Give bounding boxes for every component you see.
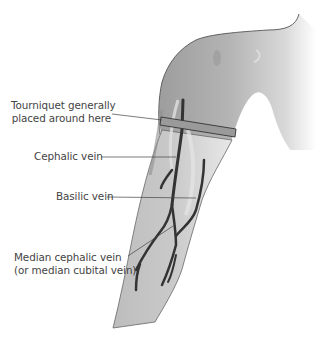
tourniquet-leader-line <box>112 114 162 120</box>
basilic-vein-label: Basilic vein <box>56 190 113 203</box>
median-label-line1: Median cephalic vein <box>14 251 136 264</box>
median-cephalic-vein-label: Median cephalic vein (or median cubital … <box>14 251 136 277</box>
median-label-line2: (or median cubital vein) <box>14 264 136 277</box>
shoulder-detail <box>213 50 221 66</box>
forearm-shape <box>113 130 232 328</box>
cephalic-vein-label: Cephalic vein <box>34 150 103 163</box>
tourniquet-label: Tourniquet generally placed around here <box>11 99 111 125</box>
arm-illustration <box>0 0 316 337</box>
arm-vein-diagram: Tourniquet generally placed around here … <box>0 0 316 337</box>
tourniquet-label-line1: Tourniquet generally <box>11 99 111 112</box>
tourniquet-label-line2: placed around here <box>11 112 111 125</box>
